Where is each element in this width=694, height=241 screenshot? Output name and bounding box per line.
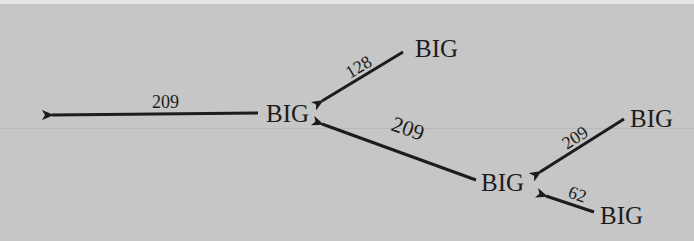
- edge-n3-n2: 209: [540, 119, 624, 172]
- edge-label: 128: [342, 51, 375, 82]
- node-top: BIG: [415, 36, 458, 61]
- node-root: BIG: [266, 101, 309, 126]
- edge-root-out: 209: [52, 92, 258, 115]
- edges-layer: 209 128 209 209 62: [0, 0, 694, 241]
- edge-label: 209: [152, 92, 179, 112]
- edge-label: 209: [388, 111, 427, 145]
- node-middle: BIG: [481, 170, 524, 195]
- edge-n4-n2: 62: [546, 182, 594, 212]
- node-right-lower: BIG: [600, 203, 643, 228]
- edge-n1-n0: 128: [322, 51, 403, 101]
- edge-n2-n0: 209: [322, 111, 476, 180]
- node-right-upper: BIG: [630, 106, 673, 131]
- edge-label: 209: [558, 122, 592, 153]
- diagram-canvas: 209 128 209 209 62 BIG BIG BIG BIG BIG: [0, 0, 694, 241]
